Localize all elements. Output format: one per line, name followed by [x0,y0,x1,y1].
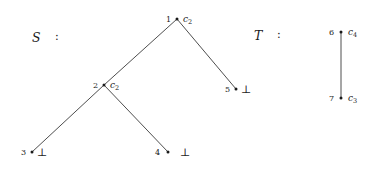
tree-node-value-subscript-7: 3 [353,97,357,105]
structure-label-t: T [254,28,263,43]
tree-edge-n1-n5 [177,19,236,89]
structure-colon-t: : [277,28,281,41]
tree-node-dot-5[interactable] [235,88,238,91]
tree-node-index-6: 6 [329,28,334,37]
tree-node-index-7: 7 [329,94,334,103]
tree-edges-layer [0,0,385,175]
tree-node-dot-3[interactable] [31,151,34,154]
tree-node-index-4: 4 [155,148,160,157]
structure-label-s: S [32,30,41,45]
tree-node-value-4: ⊥ [180,146,190,159]
tree-node-value-1: c2 [183,14,192,24]
tree-node-value-subscript-1: 2 [188,18,192,26]
tree-node-dot-1[interactable] [176,18,179,21]
tree-node-value-subscript-6: 4 [353,31,357,39]
tree-node-dot-2[interactable] [103,84,106,87]
tree-edge-n1-n2 [104,19,177,85]
tree-node-dot-6[interactable] [340,31,343,34]
tree-node-value-6: c4 [348,27,357,37]
tree-node-dot-7[interactable] [340,97,343,100]
tree-node-dot-4[interactable] [167,151,170,154]
tree-edge-n2-n4 [104,85,168,152]
tree-node-value-3: ⊥ [37,146,47,159]
structure-colon-s: : [55,30,59,43]
tree-node-value-2: c2 [110,80,119,90]
tree-node-value-5: ⊥ [241,83,251,96]
tree-node-value-7: c3 [348,93,357,103]
tree-node-index-5: 5 [225,85,230,94]
tree-node-index-2: 2 [93,81,98,90]
tree-node-index-3: 3 [21,148,26,157]
tree-edge-n2-n3 [32,85,104,152]
tree-diagram-canvas: S:T:1c22c23⊥4⊥5⊥6c47c3 [0,0,385,175]
tree-node-value-subscript-2: 2 [115,84,119,92]
tree-node-index-1: 1 [166,15,171,24]
